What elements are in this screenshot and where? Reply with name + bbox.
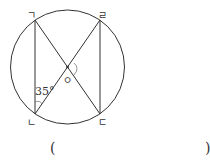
angle-label: 35° <box>35 85 55 98</box>
center-point <box>66 66 69 69</box>
label-bottom-right: ㄷ <box>98 114 107 129</box>
answer-blank[interactable]: ( ) <box>0 140 210 160</box>
label-bottom-left: ㄴ <box>27 114 36 129</box>
open-paren: ( <box>50 140 55 156</box>
angle-arc-bottom-left <box>35 101 42 104</box>
label-center: ㅇ <box>63 72 72 87</box>
label-top-right: ㄹ <box>98 7 107 22</box>
angle-arc-center <box>74 63 77 75</box>
close-paren: ) <box>205 140 210 156</box>
label-top-left: ㄱ <box>27 7 36 22</box>
